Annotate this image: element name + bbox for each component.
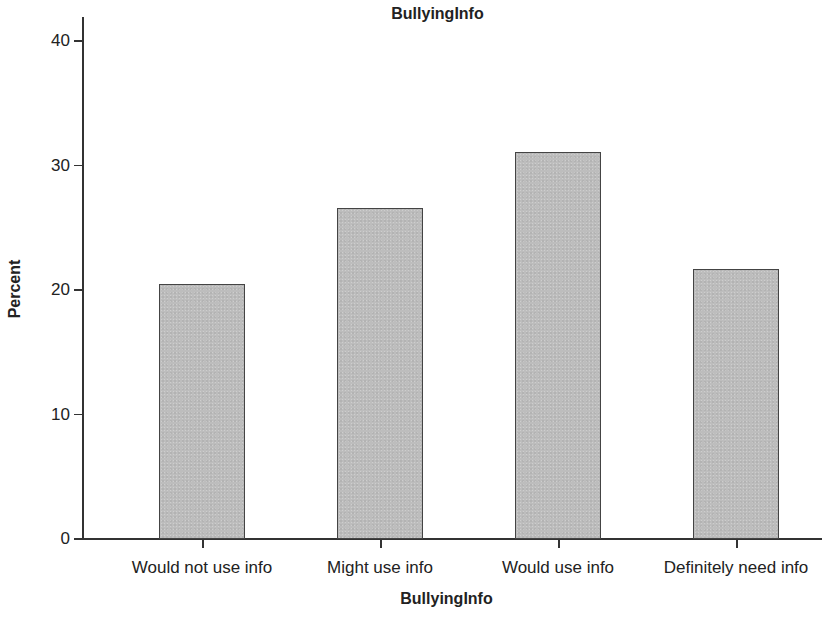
x-tick-label: Would use info — [502, 558, 614, 578]
x-axis-label: BullyingInfo — [0, 590, 833, 608]
x-tick-label: Might use info — [327, 558, 433, 578]
chart-title: BullyingInfo — [0, 5, 833, 23]
y-tick — [74, 538, 83, 540]
x-tick — [736, 539, 738, 548]
bar-might-use-info — [337, 208, 423, 539]
y-tick — [74, 289, 83, 291]
y-tick-label: 20 — [51, 280, 70, 300]
y-axis-line — [82, 17, 84, 539]
y-tick — [74, 40, 83, 42]
x-tick-label: Would not use info — [132, 558, 273, 578]
y-tick-label: 10 — [51, 405, 70, 425]
bar-would-use-info — [515, 152, 601, 539]
x-tick — [380, 539, 382, 548]
x-tick-label: Definitely need info — [664, 558, 809, 578]
y-axis-label: Percent — [6, 260, 24, 319]
bar-would-not-use-info — [159, 284, 245, 539]
x-tick — [202, 539, 204, 548]
bar-definitely-need-info — [693, 269, 779, 539]
y-tick-label: 40 — [51, 31, 70, 51]
bar-chart: BullyingInfo Percent BullyingInfo 010203… — [0, 0, 833, 628]
y-tick — [74, 414, 83, 416]
y-tick-label: 30 — [51, 156, 70, 176]
x-tick — [558, 539, 560, 548]
y-tick-label: 0 — [61, 529, 70, 549]
y-tick — [74, 165, 83, 167]
